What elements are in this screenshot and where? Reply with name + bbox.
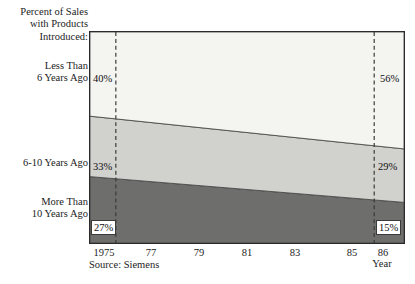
x-tick-83: 83 <box>290 247 301 259</box>
x-tick-77: 77 <box>146 247 157 259</box>
legend-label-less-than-6-years-line-1: Less Than <box>2 60 88 72</box>
x-axis-title: Year <box>372 258 391 270</box>
plot-area <box>89 31 405 244</box>
stacked-area-svg <box>90 32 404 243</box>
caption-line-2: with Products <box>4 18 88 30</box>
value-label-less-than-6-years-start: 40% <box>91 72 114 85</box>
chart-caption: Percent of Sales with Products Introduce… <box>4 6 88 43</box>
legend-label-6-10-years-line-1: 6-10 Years Ago <box>2 157 88 169</box>
legend-label-6-10-years: 6-10 Years Ago <box>2 157 88 169</box>
x-tick-85: 85 <box>347 247 358 259</box>
chart-figure: Percent of Sales with Products Introduce… <box>0 0 415 284</box>
x-tick-1975: 1975 <box>94 247 115 259</box>
legend-label-more-than-10-years-line-1: More Than <box>2 196 88 208</box>
x-tick-79: 79 <box>194 247 205 259</box>
legend-label-less-than-6-years: Less Than 6 Years Ago <box>2 60 88 85</box>
caption-line-1: Percent of Sales <box>4 6 88 18</box>
value-label-more-than-10-years-end: 15% <box>376 220 401 235</box>
x-tick-81: 81 <box>242 247 253 259</box>
source-note: Source: Siemens <box>89 259 159 271</box>
value-label-6-10-years-start: 33% <box>91 160 114 173</box>
value-label-less-than-6-years-end: 56% <box>378 72 401 85</box>
legend-label-less-than-6-years-line-2: 6 Years Ago <box>2 72 88 84</box>
legend-label-more-than-10-years: More Than 10 Years Ago <box>2 196 88 221</box>
value-label-more-than-10-years-start: 27% <box>91 220 116 235</box>
value-label-6-10-years-end: 29% <box>376 160 399 173</box>
caption-line-3: Introduced: <box>4 31 88 43</box>
legend-label-more-than-10-years-line-2: 10 Years Ago <box>2 208 88 220</box>
